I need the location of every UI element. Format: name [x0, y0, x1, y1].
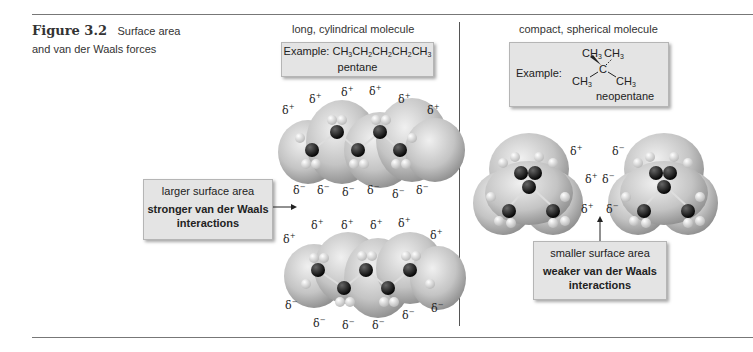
delta-plus: δ+	[398, 216, 411, 230]
delta-minus: δ−	[606, 202, 619, 216]
delta-plus: δ+	[341, 218, 354, 232]
neopentane-model-left	[473, 133, 583, 243]
delta-minus: δ−	[431, 301, 444, 315]
delta-minus: δ−	[416, 183, 429, 197]
arrow-right-icon	[273, 203, 297, 211]
figure-number: Figure 3.2	[32, 23, 107, 38]
delta-plus: δ+	[570, 144, 583, 158]
neopentane-structure: CH3 CH3 C CH3 CH3	[570, 47, 660, 91]
bond-lines	[570, 47, 660, 91]
right-heading: compact, spherical molecule	[519, 23, 658, 35]
callout-line2: stronger van der Waals	[144, 202, 272, 216]
delta-minus: δ−	[293, 183, 306, 197]
delta-minus: δ−	[317, 183, 330, 197]
delta-plus: δ+	[370, 218, 383, 232]
delta-minus: δ−	[313, 316, 326, 330]
callout-line1: smaller surface area	[534, 246, 666, 260]
callout-line3: interactions	[144, 216, 272, 230]
delta-minus: δ−	[372, 318, 385, 332]
delta-minus: δ−	[402, 308, 415, 322]
pentane-name: pentane	[338, 61, 378, 73]
delta-plus: δ+	[581, 202, 594, 216]
pentane-formula: CH3CH2CH2CH2CH3	[332, 45, 431, 57]
delta-plus: δ+	[311, 218, 324, 232]
callout-line1: larger surface area	[144, 184, 272, 198]
delta-plus: δ+	[283, 232, 296, 246]
delta-plus: δ+	[369, 84, 382, 98]
delta-plus: δ+	[427, 103, 440, 117]
delta-minus: δ−	[285, 298, 298, 312]
delta-plus: δ+	[309, 92, 322, 106]
figure-caption-line1: Surface area	[117, 25, 180, 37]
arrow-up-icon	[596, 216, 604, 242]
example-label: Example:	[516, 67, 562, 79]
larger-surface-callout: larger surface area stronger van der Waa…	[143, 179, 273, 240]
neopentane-name: neopentane	[596, 90, 654, 102]
delta-minus: δ−	[342, 185, 355, 199]
callout-line2: weaker van der Waals	[534, 264, 666, 278]
top-rule	[32, 14, 753, 15]
delta-plus: δ+	[398, 92, 411, 106]
pentane-example-box: Example: CH3CH2CH2CH2CH3 pentane	[281, 42, 434, 77]
delta-minus: δ−	[367, 183, 380, 197]
example-label: Example:	[284, 45, 330, 57]
figure-caption: Figure 3.2 Surface area and van der Waal…	[32, 21, 180, 57]
neopentane-example-box: Example: CH3 CH3 C CH3 CH3 neopentane	[509, 42, 669, 107]
figure-caption-line2: and van der Waals forces	[32, 43, 156, 55]
delta-minus: δ−	[612, 144, 625, 158]
delta-plus: δ+	[430, 228, 443, 242]
left-heading: long, cylindrical molecule	[292, 23, 414, 35]
callout-line3: interactions	[534, 278, 666, 292]
delta-plus: δ+	[585, 172, 598, 186]
bottom-rule	[32, 337, 753, 338]
smaller-surface-callout: smaller surface area weaker van der Waal…	[533, 241, 667, 300]
delta-plus: δ+	[282, 103, 295, 117]
delta-plus: δ+	[341, 85, 354, 99]
pentane-model-bottom	[278, 228, 478, 328]
delta-minus: δ−	[602, 172, 615, 186]
delta-minus: δ−	[392, 187, 405, 201]
delta-minus: δ−	[342, 318, 355, 332]
